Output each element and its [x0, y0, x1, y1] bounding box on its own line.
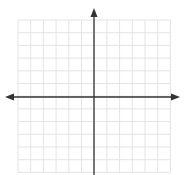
coordinate-plane — [0, 0, 184, 175]
y-axis-up-arrow-icon — [91, 8, 98, 17]
x-axis-left-arrow-icon — [5, 94, 14, 101]
x-axis-right-arrow-icon — [171, 94, 180, 101]
